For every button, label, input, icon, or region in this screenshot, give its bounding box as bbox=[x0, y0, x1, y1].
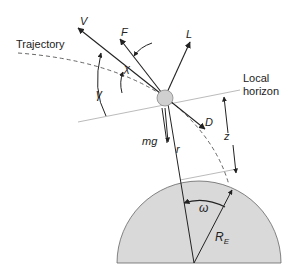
surface-horizon-line bbox=[180, 169, 237, 180]
altitude-label: z bbox=[223, 130, 230, 142]
thrust-rotation-arc bbox=[134, 43, 152, 56]
drag-label: D bbox=[205, 116, 213, 128]
reentry-diagram: Trajectory Local horizon V F L D mg r z … bbox=[0, 0, 295, 277]
velocity-arrow bbox=[78, 28, 165, 97]
radius-label: r bbox=[176, 143, 181, 155]
thrust-label: F bbox=[121, 26, 129, 38]
omega-label: ω bbox=[199, 201, 208, 215]
altitude-arrow-down bbox=[233, 145, 236, 173]
lift-arrow bbox=[165, 42, 190, 97]
gamma-arc bbox=[97, 53, 106, 116]
earth-body bbox=[117, 181, 281, 263]
vehicle-icon bbox=[157, 90, 173, 106]
velocity-label: V bbox=[80, 15, 89, 27]
chi-label: χ bbox=[123, 62, 131, 74]
gamma-label: γ bbox=[96, 87, 103, 101]
lift-label: L bbox=[186, 28, 192, 40]
trajectory-label: Trajectory bbox=[16, 38, 65, 50]
weight-label: mg bbox=[142, 135, 158, 147]
local-horizon-label-2: horizon bbox=[243, 85, 279, 97]
altitude-arrow-up bbox=[224, 97, 228, 133]
local-horizon-label-1: Local bbox=[243, 72, 269, 84]
